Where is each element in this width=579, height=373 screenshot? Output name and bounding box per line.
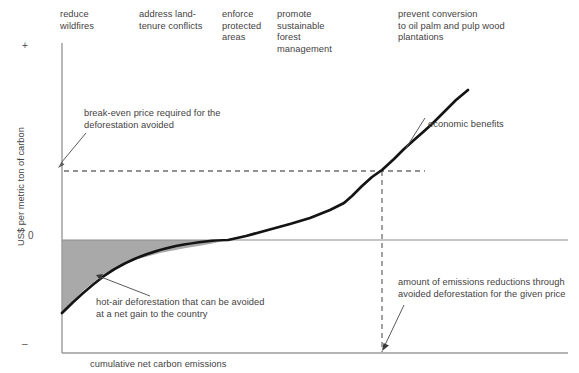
label-prevent-conversion: prevent conversion to oil palm and pulp …	[398, 9, 573, 44]
y-axis-label: US$ per metric ton of carbon	[16, 127, 26, 246]
label-promote-sustainable-forest-management: promote sustainable forest management	[277, 9, 359, 55]
break-even-arrowhead	[58, 162, 65, 168]
annotation-hot-air-deforestation: hot-air deforestation that can be avoide…	[96, 297, 346, 320]
emissions-amount-arrowhead	[382, 343, 389, 351]
annotation-economic-benefits: economic benefits	[428, 119, 548, 131]
break-even-leader-line	[61, 133, 86, 163]
annotation-break-even-price: break-even price required for the defore…	[84, 108, 334, 131]
y-axis-tick-plus: +	[22, 40, 28, 51]
hot-air-leader-line	[101, 277, 150, 296]
emissions-amount-leader-line	[385, 305, 404, 345]
y-axis-tick-zero: 0	[28, 230, 34, 241]
annotation-emissions-reductions: amount of emissions reductions through a…	[398, 277, 579, 300]
y-axis-tick-minus: –	[22, 338, 28, 349]
chart-container: reduce wildfires address land- tenure co…	[0, 0, 579, 373]
x-axis-label: cumulative net carbon emissions	[90, 359, 320, 371]
